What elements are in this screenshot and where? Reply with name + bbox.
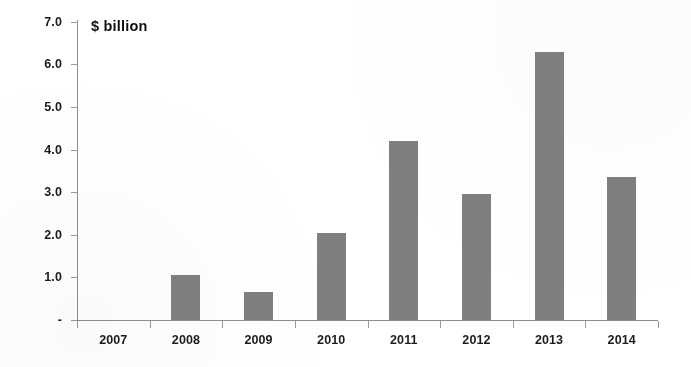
x-axis-tick (585, 321, 586, 328)
x-axis-tick (658, 321, 659, 328)
y-axis-tick (71, 235, 78, 236)
x-axis-tick (222, 321, 223, 328)
y-axis-tick-label: 6.0 (18, 58, 62, 71)
y-axis-tick-label: - (18, 314, 62, 327)
y-axis-tick-label: 3.0 (18, 186, 62, 199)
x-axis-tick-label: 2007 (77, 334, 149, 347)
x-axis-tick (150, 321, 151, 328)
y-axis-tick (71, 192, 78, 193)
x-axis-tick-label: 2011 (368, 334, 440, 347)
y-axis-tick-label: 4.0 (18, 144, 62, 157)
y-axis-tick-label: 7.0 (18, 16, 62, 29)
x-axis-tick (77, 321, 78, 328)
bar (317, 233, 346, 320)
y-axis-tick (71, 277, 78, 278)
x-axis-tick (368, 321, 369, 328)
bar-chart: $ billion -1.02.03.04.05.06.07.0 2007200… (0, 0, 691, 367)
bar (171, 275, 200, 320)
x-axis-tick-label: 2010 (295, 334, 367, 347)
y-axis-tick-label: 5.0 (18, 101, 62, 114)
y-axis-tick (71, 22, 78, 23)
y-axis-tick-label: 2.0 (18, 229, 62, 242)
chart-title: $ billion (91, 19, 148, 34)
bar (389, 141, 418, 320)
bar (244, 292, 273, 320)
y-axis-tick (71, 107, 78, 108)
x-axis-tick (513, 321, 514, 328)
x-axis-tick-label: 2014 (586, 334, 658, 347)
x-axis-tick-label: 2009 (223, 334, 295, 347)
bar (607, 177, 636, 320)
bar (535, 52, 564, 320)
x-axis-tick-label: 2008 (150, 334, 222, 347)
y-axis-tick-label: 1.0 (18, 271, 62, 284)
bar (462, 194, 491, 320)
x-axis-tick (295, 321, 296, 328)
x-axis-tick (440, 321, 441, 328)
y-axis-tick (71, 64, 78, 65)
x-axis-tick-label: 2013 (513, 334, 585, 347)
x-axis-tick-label: 2012 (440, 334, 512, 347)
y-axis-tick (71, 150, 78, 151)
